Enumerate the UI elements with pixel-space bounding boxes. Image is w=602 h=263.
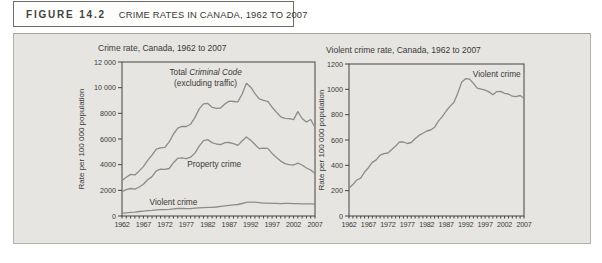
y-axis-tick-label: 8000	[100, 109, 116, 118]
x-axis-tick-label: 1987	[222, 220, 237, 229]
y-axis-tick-label: 12 000	[94, 58, 116, 67]
y-axis-tick-label: 4000	[100, 160, 116, 169]
x-axis-tick-label: 1982	[419, 220, 434, 229]
x-axis-tick-label: 2002	[497, 220, 512, 229]
x-axis-tick-label: 1962	[114, 220, 129, 229]
x-axis-tick-label: 1992	[243, 220, 258, 229]
y-axis-tick-label: 1000	[327, 85, 343, 94]
y-axis-tick-label: 2000	[100, 186, 116, 195]
y-axis-tick-label: 800	[331, 110, 343, 119]
y-axis-tick-label: 600	[331, 136, 343, 145]
figure: FIGURE 14.2 CRIME RATES IN CANADA, 1962 …	[0, 0, 602, 263]
annotation-label: Violent crime	[150, 197, 198, 207]
annotation-label: Violent crime	[473, 69, 521, 79]
x-axis-tick-label: 1992	[458, 220, 473, 229]
annotation-label: (excluding traffic)	[174, 78, 237, 88]
y-axis-tick-label: 400	[331, 161, 343, 170]
x-axis-tick-label: 1972	[380, 220, 395, 229]
chart-title: Violent crime rate, Canada, 1962 to 2007	[326, 45, 481, 55]
figure-title: CRIME RATES IN CANADA, 1962 TO 2007	[119, 9, 308, 20]
x-axis-tick-label: 1972	[157, 220, 172, 229]
y-axis-tick-label: 1200	[327, 60, 343, 69]
x-axis-tick-label: 1997	[265, 220, 280, 229]
y-axis-tick-label: 6000	[100, 135, 116, 144]
annotation-label: Property crime	[187, 159, 241, 169]
plot-frame	[349, 64, 524, 216]
x-axis-tick-label: 1997	[478, 220, 493, 229]
violent-crime-rate-chart: Violent crime rate, Canada, 1962 to 2007…	[313, 39, 593, 239]
crime-rate-chart: Crime rate, Canada, 1962 to 2007Rate per…	[61, 39, 331, 239]
figure-header: FIGURE 14.2 CRIME RATES IN CANADA, 1962 …	[13, 1, 294, 27]
x-axis-tick-label: 2007	[516, 220, 531, 229]
figure-label: FIGURE 14.2	[26, 9, 106, 20]
figure-panel: Crime rate, Canada, 1962 to 2007Rate per…	[13, 33, 591, 244]
x-axis-tick-label: 1987	[439, 220, 454, 229]
series-line-violent-crime	[349, 79, 524, 188]
y-axis-tick-label: 10 000	[94, 83, 116, 92]
annotation-label: Total Criminal Code	[169, 67, 242, 77]
x-axis-tick-label: 1977	[400, 220, 415, 229]
x-axis-tick-label: 1962	[341, 220, 356, 229]
x-axis-tick-label: 1982	[200, 220, 215, 229]
y-axis-tick-label: 200	[331, 186, 343, 195]
x-axis-tick-label: 1967	[136, 220, 151, 229]
chart-title: Crime rate, Canada, 1962 to 2007	[98, 43, 227, 53]
x-axis-tick-label: 2002	[286, 220, 301, 229]
y-axis-label: Rate per 100 000 population	[77, 89, 86, 190]
y-axis-label: Rate per 100 000 population	[317, 90, 326, 191]
x-axis-tick-label: 1967	[361, 220, 376, 229]
x-axis-tick-label: 1977	[179, 220, 194, 229]
